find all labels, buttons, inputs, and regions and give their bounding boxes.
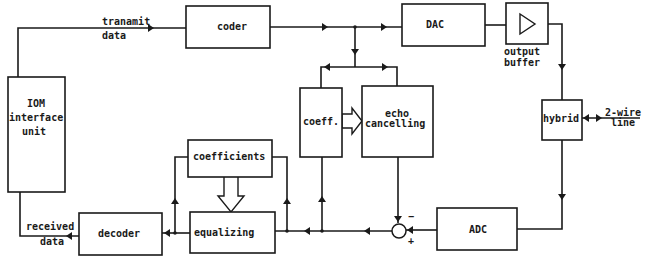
- hollow-arrow-coeff-to-echo: [342, 108, 362, 134]
- block-iom-interface-unit: IOM interface unit: [8, 77, 65, 192]
- arrow-left-icon: [324, 63, 330, 71]
- two-wire-line-label-2: line: [611, 117, 635, 128]
- iom-label-2: interface: [9, 112, 63, 123]
- block-dac: DAC: [402, 4, 485, 46]
- minus-sign: −: [408, 211, 414, 222]
- arrow-down-icon: [558, 64, 566, 70]
- echo-canceller-block-diagram: IOM interface unit coder DAC output buff…: [0, 0, 645, 258]
- wire-output-to-coefficients: [175, 157, 188, 233]
- block-output-buffer: output buffer: [504, 3, 548, 68]
- wire-buffer-to-hybrid: [548, 24, 562, 100]
- buffer-label-1: output: [504, 46, 540, 57]
- arrow-up-icon: [318, 196, 326, 202]
- dac-label: DAC: [426, 19, 444, 30]
- junction-dot: [353, 25, 357, 29]
- iom-label-3: unit: [22, 126, 46, 137]
- buffer-label-2: buffer: [504, 57, 540, 68]
- block-coefficients: coefficients: [188, 140, 272, 177]
- arrow-down-icon: [394, 216, 402, 222]
- junction-dot: [285, 229, 289, 233]
- equalizing-label: equalizing: [194, 227, 254, 238]
- arrow-down-icon: [558, 194, 566, 200]
- coefficients-label: coefficients: [193, 151, 265, 162]
- wire-split: [321, 67, 397, 88]
- wire-hybrid-to-adc: [517, 140, 562, 229]
- transmit-data-label-1: tranamit: [102, 16, 150, 27]
- block-echo-cancelling: echo cancelling: [362, 86, 433, 157]
- hybrid-label: hybrid: [543, 113, 579, 124]
- received-data-label-2: data: [40, 236, 64, 247]
- coeff-label: coeff.: [303, 116, 339, 127]
- block-hybrid: hybrid: [542, 100, 582, 140]
- arrow-left-icon: [407, 226, 413, 234]
- arrow-right-icon: [322, 23, 328, 31]
- block-coeff: coeff.: [300, 88, 342, 157]
- arrow-left-icon: [304, 227, 310, 235]
- arrow-left-icon: [583, 114, 589, 122]
- junction-dot: [173, 231, 177, 235]
- arrow-down-icon: [351, 49, 359, 55]
- plus-sign: +: [408, 235, 414, 246]
- block-decoder: decoder: [79, 213, 162, 255]
- block-coder: coder: [186, 6, 270, 48]
- hollow-arrow-coefficients-to-equalizing: [218, 177, 244, 212]
- block-equalizing: equalizing: [190, 212, 275, 253]
- arrow-up-icon: [283, 198, 291, 204]
- arrow-right-icon: [381, 23, 387, 31]
- arrow-left-icon: [164, 229, 170, 237]
- echo-label-2: cancelling: [365, 118, 425, 129]
- arrow-left-icon: [364, 227, 370, 235]
- transmit-data-label-2: data: [102, 30, 126, 41]
- block-adc: ADC: [437, 208, 517, 250]
- arrow-up-icon: [171, 198, 179, 204]
- arrow-right-icon: [596, 114, 602, 122]
- coder-label: coder: [217, 21, 247, 32]
- decoder-label: decoder: [98, 228, 140, 239]
- iom-label-1: IOM: [27, 98, 45, 109]
- arrow-right-icon: [382, 63, 388, 71]
- adc-label: ADC: [469, 224, 487, 235]
- junction-dot: [320, 229, 324, 233]
- received-data-label-1: received: [26, 221, 74, 232]
- arrow-left-icon: [66, 232, 72, 240]
